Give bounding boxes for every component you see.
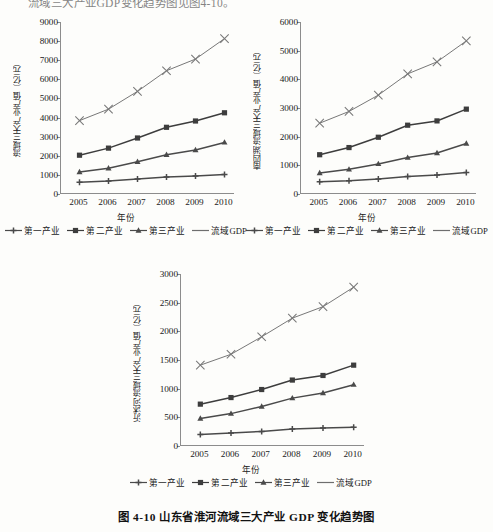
- y-tick-label: 2000: [280, 132, 298, 142]
- y-axis-title-text: 流域三大产业产值（亿元）: [13, 59, 25, 157]
- data-point: [403, 70, 411, 78]
- y-tick-label: 7000: [40, 55, 58, 65]
- series-triangle: [77, 139, 228, 174]
- x-axis-title: 年份: [132, 463, 370, 475]
- data-point: [288, 314, 296, 322]
- y-tick-label: 1500: [160, 355, 178, 365]
- series-line: [320, 109, 467, 155]
- legend-item-label: 第三产业: [274, 476, 310, 488]
- legend-item-label: 第一产业: [265, 224, 301, 236]
- x-tick-label: 2007: [127, 197, 145, 207]
- legend-item-1[interactable]: 第一产业: [130, 476, 185, 488]
- data-point: [374, 91, 382, 99]
- y-tick-label: 2500: [160, 298, 178, 308]
- data-point: [351, 381, 357, 386]
- data-point: [346, 178, 352, 184]
- chart-legend: 第一产业第二产业第三产业流域GDP: [132, 476, 370, 488]
- data-point: [220, 34, 228, 42]
- data-point: [464, 107, 469, 112]
- data-point: [405, 123, 410, 128]
- series-line: [200, 365, 353, 404]
- legend-item-2[interactable]: 第二产业: [192, 476, 247, 488]
- legend-item-4[interactable]: 流域GDP: [433, 224, 488, 236]
- legend-item-label: 第一产业: [24, 224, 60, 236]
- data-point: [319, 302, 327, 310]
- series-line: [80, 39, 225, 121]
- legend-item-label: 第一产业: [149, 476, 185, 488]
- series-cross: [315, 37, 470, 128]
- legend-item-label: 第二产业: [327, 224, 363, 236]
- y-tick-label: 2000: [40, 151, 58, 161]
- x-tick-label: 2008: [397, 197, 415, 207]
- series-line: [320, 144, 467, 174]
- y-tick-label: 0: [293, 189, 298, 199]
- series-line: [80, 175, 225, 183]
- y-tick-label: 1000: [40, 170, 58, 180]
- data-point: [289, 426, 295, 432]
- legend-item-1[interactable]: 第一产业: [5, 224, 60, 236]
- data-point: [317, 152, 322, 157]
- data-point: [193, 118, 198, 123]
- series-plus: [317, 170, 470, 185]
- data-point: [191, 55, 199, 63]
- legend-item-3[interactable]: 第三产业: [371, 224, 426, 236]
- series-line: [200, 427, 353, 434]
- x-axis-title: 年份: [252, 211, 482, 223]
- series-plus: [197, 424, 356, 437]
- x-tick-label: 2005: [309, 197, 327, 207]
- legend-item-3[interactable]: 第三产业: [130, 224, 185, 236]
- series-layer: [61, 22, 235, 194]
- data-point: [351, 363, 356, 368]
- data-point: [463, 170, 469, 176]
- x-tick-label: 2006: [221, 449, 239, 459]
- series-cross: [196, 283, 358, 369]
- legend-item-label: 第二产业: [86, 224, 122, 236]
- x-tick-label: 2005: [190, 449, 208, 459]
- data-point: [257, 333, 265, 341]
- data-point: [106, 146, 111, 151]
- data-point: [228, 395, 233, 400]
- page-running-text: 流域三大产业GDP变化趋势图见图4-10。: [28, 0, 468, 8]
- data-point: [164, 174, 170, 180]
- legend-item-2[interactable]: 第二产业: [308, 224, 363, 236]
- y-tick-label: 4000: [280, 74, 298, 84]
- y-axis-title-text: 沂沭河流域三大产业产值（亿元）: [133, 299, 145, 422]
- x-tick-label: 2006: [98, 197, 116, 207]
- y-axis-ticks: 0100020003000400050006000: [266, 22, 300, 194]
- y-tick-label: 6000: [280, 17, 298, 27]
- plot-area: [60, 22, 234, 194]
- legend-item-1[interactable]: 第一产业: [246, 224, 301, 236]
- x-tick-label: 2006: [339, 197, 357, 207]
- series-triangle: [197, 381, 356, 420]
- data-point: [259, 428, 265, 434]
- legend-item-3[interactable]: 第三产业: [255, 476, 310, 488]
- x-tick-label: 2008: [282, 449, 300, 459]
- data-point: [433, 58, 441, 66]
- data-point: [375, 176, 381, 182]
- chart-legend: 第一产业第二产业第三产业流域GDP: [252, 224, 482, 236]
- data-point: [198, 402, 203, 407]
- data-point: [222, 110, 227, 115]
- y-axis-title: 沂沭河流域三大产业产值（亿元）: [132, 274, 146, 446]
- legend-item-4[interactable]: 流域GDP: [192, 224, 247, 236]
- x-tick-label: 2010: [343, 449, 361, 459]
- data-point: [315, 119, 323, 127]
- legend-item-label: 流域GDP: [211, 224, 247, 236]
- chart-legend: 第一产业第二产业第三产业流域GDP: [12, 224, 240, 236]
- chart-panel-yishuhe: 沂沭河流域三大产业产值（亿元）0500100015002000250030002…: [132, 268, 370, 500]
- y-tick-label: 9000: [40, 17, 58, 27]
- data-point: [197, 432, 203, 438]
- scanned-book-page: 流域三大产业GDP变化趋势图见图4-10。 流域三大产业产值（亿元）010002…: [0, 0, 493, 532]
- y-tick-label: 1000: [280, 160, 298, 170]
- data-point: [77, 153, 82, 158]
- data-point: [320, 373, 325, 378]
- data-point: [222, 139, 228, 144]
- y-tick-label: 3000: [40, 132, 58, 142]
- data-point: [77, 179, 83, 185]
- legend-item-4[interactable]: 流域GDP: [317, 476, 372, 488]
- legend-item-2[interactable]: 第二产业: [67, 224, 122, 236]
- y-tick-label: 5000: [40, 93, 58, 103]
- plot-area: [300, 22, 476, 194]
- data-point: [434, 172, 440, 178]
- data-point: [164, 125, 169, 130]
